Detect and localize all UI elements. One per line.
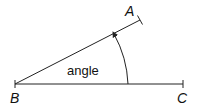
- label-c: C: [177, 90, 188, 106]
- label-a: A: [124, 3, 134, 19]
- label-b: B: [10, 90, 19, 106]
- angle-label: angle: [67, 63, 99, 78]
- tick-a: [138, 16, 143, 25]
- angle-arc-arrow: [114, 34, 128, 84]
- angle-diagram: A B C angle: [0, 0, 199, 108]
